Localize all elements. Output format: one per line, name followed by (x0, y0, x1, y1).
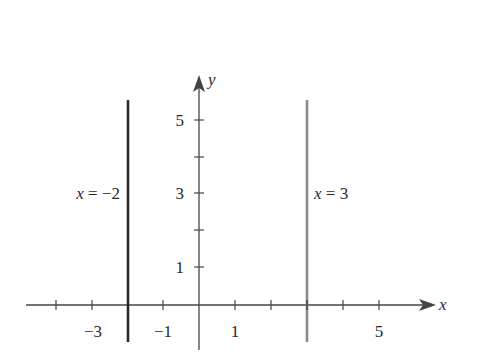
coordinate-plane: −3 −1 1 5 x 5 3 1 y x = −2 x = 3 (0, 0, 488, 360)
y-tick-label: 3 (176, 184, 185, 203)
x-axis-label: x (438, 295, 447, 314)
x-tick-label: 1 (231, 322, 240, 341)
y-axis: 5 3 1 y (176, 70, 217, 350)
y-tick-label: 1 (176, 258, 185, 277)
x-tick-label: −1 (154, 322, 172, 341)
y-axis-label: y (206, 70, 216, 89)
x-axis: −3 −1 1 5 x (26, 295, 447, 341)
y-tick-label: 5 (176, 111, 185, 130)
line-x-equals-3: x = 3 (307, 100, 348, 342)
line-label-left: x = −2 (75, 184, 120, 203)
line-x-equals-minus-2: x = −2 (75, 100, 128, 342)
x-tick-label: 5 (375, 322, 384, 341)
x-tick-label: −3 (84, 322, 102, 341)
line-label-right: x = 3 (313, 184, 348, 203)
